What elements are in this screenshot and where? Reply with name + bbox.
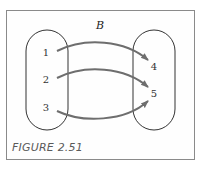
relation-label: B [95, 19, 104, 32]
domain-element-2: 2 [43, 74, 49, 85]
codomain-element-4: 4 [151, 61, 157, 72]
figure-caption: FIGURE 2.51 [12, 141, 83, 154]
arrow-2-to-5 [57, 69, 148, 87]
domain-element-3: 3 [43, 102, 49, 113]
domain-element-1: 1 [43, 47, 49, 58]
codomain-element-5: 5 [151, 88, 157, 99]
arrow-1-to-4 [57, 42, 148, 60]
